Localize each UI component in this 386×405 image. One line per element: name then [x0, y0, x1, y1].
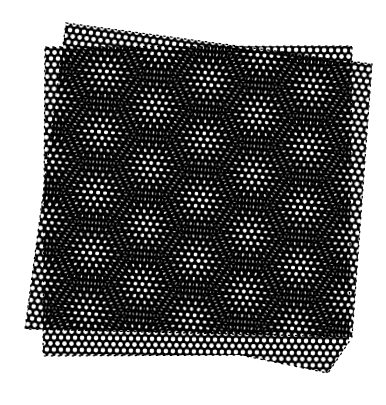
moire-scene	[0, 0, 386, 405]
front-sheet	[43, 46, 352, 373]
